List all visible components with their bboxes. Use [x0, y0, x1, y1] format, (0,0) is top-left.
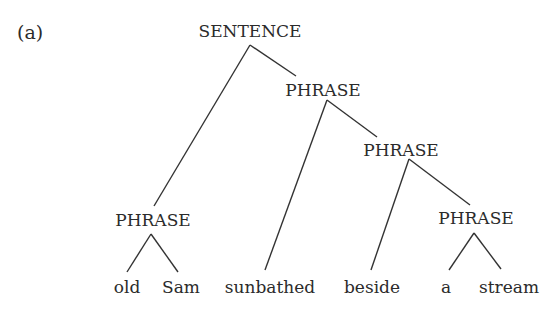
edge-subject-old — [127, 234, 151, 272]
node-phrase-pp: PHRASE — [363, 140, 438, 160]
word-sam: Sam — [162, 277, 200, 297]
panel-label: (a) — [17, 21, 43, 43]
edge-pp-object — [409, 159, 470, 205]
edge-vp-pp — [327, 100, 377, 137]
tree-svg: (a) SENTENCE PHRASE PHRASE PHRASE PHRASE… — [0, 0, 558, 320]
syntax-tree-diagram: (a) SENTENCE PHRASE PHRASE PHRASE PHRASE… — [0, 0, 558, 320]
node-phrase-vp: PHRASE — [285, 80, 360, 100]
edge-vp-sunbathed — [265, 100, 327, 270]
word-stream: stream — [479, 277, 539, 297]
edge-object-stream — [474, 233, 501, 269]
node-sentence: SENTENCE — [199, 21, 302, 41]
node-phrase-object: PHRASE — [438, 208, 513, 228]
edge-pp-beside — [371, 159, 409, 270]
edge-subject-sam — [151, 234, 178, 272]
word-sunbathed: sunbathed — [225, 277, 315, 297]
edge-object-a — [449, 233, 474, 270]
word-beside: beside — [344, 277, 400, 297]
word-old: old — [114, 277, 141, 297]
edge-sentence-subject — [154, 45, 250, 206]
node-phrase-subject: PHRASE — [115, 210, 190, 230]
word-a: a — [441, 277, 451, 297]
edge-sentence-vp — [250, 45, 296, 76]
